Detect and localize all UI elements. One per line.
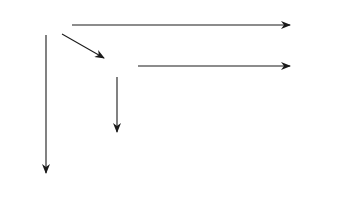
commutative-diagram bbox=[0, 0, 352, 211]
arrow-skcprime-to-skc bbox=[62, 34, 104, 58]
diagram-arrows bbox=[0, 0, 352, 211]
